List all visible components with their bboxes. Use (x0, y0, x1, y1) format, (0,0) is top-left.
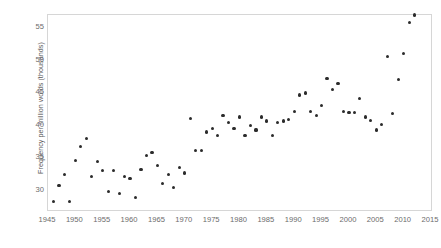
data-point (293, 110, 296, 113)
data-point (227, 121, 230, 124)
data-point (112, 169, 115, 172)
data-point (123, 175, 126, 178)
data-point (287, 118, 290, 121)
data-point (216, 134, 219, 137)
data-point (408, 21, 411, 24)
data-point (145, 154, 148, 157)
data-point (205, 130, 208, 133)
data-point (397, 78, 400, 81)
data-point (364, 115, 367, 118)
data-point (118, 192, 121, 195)
data-point (298, 93, 301, 96)
data-point (353, 111, 356, 114)
data-point (68, 200, 71, 203)
data-point (347, 111, 350, 114)
y-tick-label: 35 (18, 153, 44, 161)
data-point (178, 166, 181, 169)
y-tick-label: 40 (18, 121, 44, 129)
data-point (304, 91, 307, 94)
data-point (107, 190, 110, 193)
y-tick-label: 50 (18, 56, 44, 64)
data-point (243, 134, 246, 137)
data-point (336, 82, 339, 85)
data-point (380, 123, 383, 126)
data-point (150, 151, 153, 154)
data-point (134, 196, 137, 199)
data-point (101, 169, 104, 172)
data-point (238, 115, 241, 118)
data-point (386, 55, 389, 58)
y-tick-label: 30 (18, 186, 44, 194)
data-point (52, 200, 55, 203)
data-point (254, 128, 257, 131)
data-point (282, 119, 285, 122)
data-point (57, 184, 60, 187)
data-point (172, 186, 175, 189)
data-point (402, 52, 405, 55)
scatter-chart-figure: Frequency per million words (thousands) … (0, 0, 441, 248)
data-point (161, 182, 164, 185)
data-point (79, 145, 82, 148)
y-tick-label: 55 (18, 23, 44, 31)
data-point (232, 127, 235, 130)
data-point (139, 168, 142, 171)
data-point (260, 115, 263, 118)
data-point (74, 159, 77, 162)
data-point (309, 110, 312, 113)
data-point (276, 121, 279, 124)
data-point (271, 134, 274, 137)
data-point (325, 77, 328, 80)
data-point (369, 119, 372, 122)
data-point (167, 173, 170, 176)
data-point (85, 137, 88, 140)
x-axis-tick-labels: 1945195019551960196519701975198019851990… (0, 215, 441, 227)
data-point (358, 97, 361, 100)
plot-area (47, 14, 432, 211)
data-point (211, 127, 214, 130)
data-point (265, 119, 268, 122)
y-tick-label: 45 (18, 88, 44, 96)
x-tick-label: 2015 (410, 215, 441, 224)
data-point (320, 104, 323, 107)
data-point (342, 110, 345, 113)
data-point (156, 164, 159, 167)
data-point (90, 175, 93, 178)
data-point (200, 149, 203, 152)
data-point (189, 117, 192, 120)
data-point (221, 114, 224, 117)
data-point (391, 112, 394, 115)
data-point (315, 114, 318, 117)
y-axis-tick-labels: 303540455055 (12, 14, 44, 211)
data-point (249, 124, 252, 127)
data-point (331, 88, 334, 91)
data-point (128, 177, 131, 180)
data-point (96, 160, 99, 163)
data-point (194, 149, 197, 152)
data-point (183, 171, 186, 174)
data-point (375, 128, 378, 131)
data-point (63, 173, 66, 176)
data-point (413, 13, 416, 16)
